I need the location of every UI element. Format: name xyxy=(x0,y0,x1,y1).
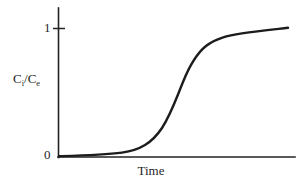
y-axis-denominator-subscript: e xyxy=(36,78,40,88)
sigmoid-curve xyxy=(59,28,288,156)
x-axis-label: Time xyxy=(138,164,165,177)
y-axis-numerator: C xyxy=(13,71,22,86)
y-axis-label: Ci/Ce xyxy=(13,72,40,85)
origin-tick-label-0: 0 xyxy=(44,148,51,161)
sigmoid-chart-figure: Ci/Ce 1 0 Time xyxy=(0,0,305,183)
y-tick-label-1: 1 xyxy=(44,21,51,34)
y-axis-numerator-subscript: i xyxy=(22,78,24,88)
